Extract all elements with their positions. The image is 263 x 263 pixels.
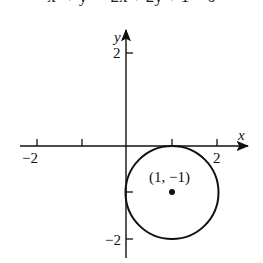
center-label: (1, −1) [149,169,190,186]
x-ticks [37,139,217,146]
x-axis-label: x [237,127,245,143]
circle-plot: y x −2 2 2 −2 (1, −1) [0,0,263,263]
x-tick-label-pos2: 2 [213,150,221,166]
y-tick-label-pos2: 2 [113,45,121,61]
x-tick-label-neg2: −2 [22,150,38,166]
y-tick-label-neg2: −2 [105,232,121,248]
center-point [169,189,175,195]
y-axis-label: y [112,29,121,45]
